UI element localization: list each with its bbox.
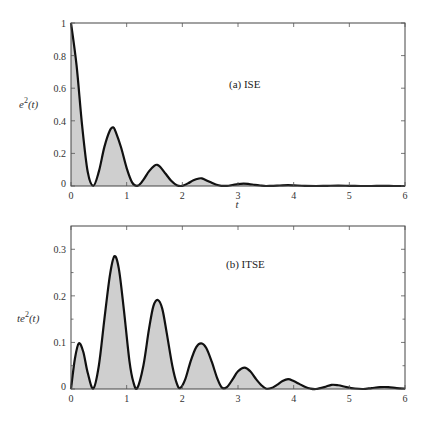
ise-y-tick-label: 0 [61,178,66,189]
itse-annotation: (b) ITSE [226,258,265,271]
ise-x-tick-label: 1 [124,190,129,201]
itse-y-label-main: te [17,312,25,324]
panel-itse: 0123456 00.10.20.3 (b) ITSE te2(t) [17,226,408,404]
ise-area-fill [71,23,405,186]
ise-y-tick-label: 1 [61,18,66,29]
ise-x-tick-label: 2 [180,190,185,201]
itse-y-label-tail: (t) [29,312,40,325]
ise-x-tick-label: 0 [69,190,74,201]
itse-y-tick-label: 0.1 [54,337,67,348]
panel-ise: 0123456 00.20.40.60.81 (a) ISE t e2(t) [19,18,408,210]
ise-annotation: (a) ISE [229,78,261,91]
itse-x-tick-label: 5 [347,393,352,404]
itse-x-tick-label: 4 [291,393,296,404]
itse-x-tick-label: 3 [236,393,241,404]
ise-y-tick-label: 0.4 [54,116,67,127]
ise-x-tick-label: 4 [291,190,296,201]
ise-x-tick-label: 6 [403,190,408,201]
itse-y-tick-label: 0 [61,381,66,392]
itse-x-tick-label: 0 [69,393,74,404]
itse-x-tick-label: 6 [403,393,408,404]
itse-area-fill [71,256,405,389]
ise-y-label-tail: (t) [28,98,39,111]
ise-x-tick-label: 5 [347,190,352,201]
chart-figure: 0123456 00.20.40.60.81 (a) ISE t e2(t) 0… [0,0,430,425]
itse-y-tick-label: 0.3 [54,244,67,255]
itse-y-tick-label: 0.2 [54,291,67,302]
ise-y-axis-label: e2(t) [19,96,39,111]
ise-y-tick-label: 0.6 [54,83,67,94]
itse-x-tick-label: 2 [180,393,185,404]
ise-y-tick-label: 0.2 [54,148,67,159]
itse-y-axis-label: te2(t) [17,310,40,325]
ise-y-tick-label: 0.8 [54,51,67,62]
itse-x-tick-label: 1 [124,393,129,404]
